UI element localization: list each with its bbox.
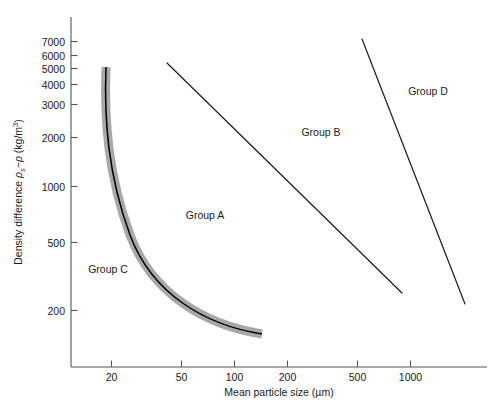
y-axis-title-minus-rho: −ρ — [12, 156, 24, 168]
annotation-group-d: Group D — [408, 85, 448, 97]
x-axis-tick-labels: 20 50 100 200 500 1000 — [106, 371, 423, 383]
svg-text:Density difference ρs−ρ (kg/m3: Density difference ρs−ρ (kg/m3) — [11, 119, 27, 265]
y-tick-label: 4000 — [42, 79, 66, 91]
y-tick-label: 200 — [47, 305, 65, 317]
y-axis-title-units-tail: ) — [12, 119, 24, 123]
y-tick-label: 3000 — [42, 99, 66, 111]
group-c-boundary-line — [106, 67, 262, 334]
x-tick-label: 100 — [226, 371, 244, 383]
y-axis-title: Density difference ρs−ρ (kg/m3) — [11, 119, 27, 265]
x-axis-ticks — [112, 361, 411, 368]
series-group-c-a-boundary — [106, 67, 262, 334]
series-group-a-b-boundary — [167, 63, 402, 293]
geldart-classification-chart: 7000 6000 5000 4000 3000 2000 1000 500 2… — [0, 0, 502, 408]
y-tick-label: 2000 — [42, 132, 66, 144]
series-group-b-d-boundary — [362, 39, 465, 304]
annotation-group-b: Group B — [301, 126, 340, 138]
chart-page: 7000 6000 5000 4000 3000 2000 1000 500 2… — [0, 0, 502, 408]
y-tick-label: 6000 — [42, 50, 66, 62]
y-tick-label: 5000 — [42, 63, 66, 75]
y-axis-title-rho: ρ — [12, 172, 24, 179]
y-axis-title-lead: Density difference — [12, 178, 24, 265]
x-tick-label: 1000 — [399, 371, 423, 383]
x-tick-label: 500 — [349, 371, 367, 383]
y-tick-label: 7000 — [42, 36, 66, 48]
annotation-group-a: Group A — [186, 209, 225, 221]
y-axis-title-units-lead: (kg/m — [12, 127, 24, 156]
y-tick-label: 500 — [47, 237, 65, 249]
x-tick-label: 20 — [106, 371, 118, 383]
y-tick-label: 1000 — [42, 181, 66, 193]
x-tick-label: 200 — [279, 371, 297, 383]
annotation-group-c: Group C — [88, 263, 128, 275]
group-c-boundary-band — [106, 67, 262, 334]
y-axis-tick-labels: 7000 6000 5000 4000 3000 2000 1000 500 2… — [42, 36, 66, 317]
x-tick-label: 50 — [176, 371, 188, 383]
x-axis-title: Mean particle size (µm) — [224, 386, 333, 398]
y-axis-ticks — [71, 42, 78, 311]
